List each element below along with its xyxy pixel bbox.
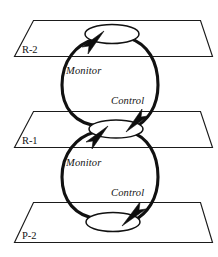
loop-lower-monitor-label: Monitor bbox=[65, 157, 102, 168]
node-top bbox=[82, 25, 139, 55]
loop-lower-control-arc bbox=[129, 131, 158, 221]
plane-r2-label: R-2 bbox=[22, 44, 37, 55]
loop-upper-control-label: Control bbox=[111, 95, 144, 106]
loop-upper-monitor-arc bbox=[62, 39, 99, 126]
plane-r1-label: R-1 bbox=[22, 135, 37, 146]
node-middle bbox=[86, 109, 148, 149]
loop-lower-control-label: Control bbox=[111, 187, 144, 198]
loop-upper bbox=[62, 38, 158, 128]
loop-upper-monitor-label: Monitor bbox=[65, 65, 102, 76]
loop-upper-control-arc bbox=[129, 38, 158, 128]
loop-lower bbox=[62, 131, 158, 221]
diagram-canvas: R-2 R-1 P-2 Monitor Control Monitor Cont… bbox=[0, 0, 218, 257]
layered-loop-diagram: R-2 R-1 P-2 Monitor Control Monitor Cont… bbox=[0, 0, 218, 257]
node-bottom bbox=[86, 202, 146, 232]
plane-p2-label: P-2 bbox=[22, 230, 36, 241]
